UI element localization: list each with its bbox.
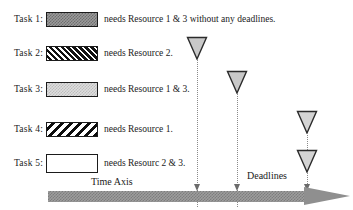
deadline-marker-task-5: [296, 149, 318, 177]
down-triangle-icon: [296, 149, 318, 173]
task-color-swatch: [46, 154, 98, 173]
task-row: Task 3: needs Resource 1 & 3.: [14, 78, 190, 100]
task-description: needs Resourc 2 & 3.: [104, 158, 186, 168]
diagram-canvas: Task 1: needs Resource 1 & 3 without any…: [0, 0, 353, 210]
task-description: needs Resource 1.: [104, 124, 173, 134]
task-description: needs Resource 2.: [104, 48, 173, 58]
task-row: Task 5: needs Resourc 2 & 3.: [14, 152, 186, 174]
deadline-dropline: [307, 172, 308, 184]
deadlines-label: Deadlines: [245, 170, 289, 181]
task-color-swatch: [46, 46, 98, 61]
task-label: Task 5:: [14, 158, 43, 168]
task-row: Task 2: needs Resource 2.: [14, 42, 173, 64]
task-description: needs Resource 1 & 3 without any deadlin…: [104, 14, 276, 24]
task-row: Task 4: needs Resource 1.: [14, 118, 173, 140]
time-axis-shaft: [48, 191, 306, 202]
task-label: Task 2:: [14, 48, 43, 58]
task-row: Task 1: needs Resource 1 & 3 without any…: [14, 8, 275, 30]
task-description: needs Resource 1 & 3.: [104, 84, 190, 94]
task-color-swatch: [46, 12, 98, 27]
task-label: Task 4:: [14, 124, 43, 134]
deadline-marker-task-4: [296, 110, 318, 138]
task-color-swatch: [46, 82, 98, 97]
task-label: Task 3:: [14, 84, 43, 94]
down-triangle-icon: [296, 110, 318, 134]
down-triangle-icon: [226, 70, 248, 94]
deadline-dropline: [307, 133, 308, 150]
time-axis-label: Time Axis: [89, 176, 135, 187]
time-axis: [48, 187, 353, 207]
task-color-swatch: [46, 122, 98, 137]
task-label: Task 1:: [14, 14, 43, 24]
down-triangle-icon: [186, 36, 208, 60]
deadline-marker-task-3: [226, 70, 248, 98]
time-axis-arrowhead: [304, 187, 350, 205]
deadline-marker-task-2: [186, 36, 208, 64]
